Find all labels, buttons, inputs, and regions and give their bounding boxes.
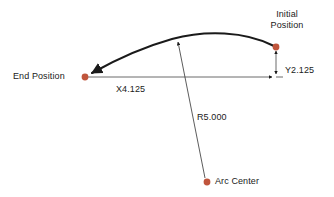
initial-position-label-line2: Position xyxy=(271,20,304,30)
initial-position-point xyxy=(273,44,280,51)
y-dimension-label: Y2.125 xyxy=(285,65,314,76)
radius-leader-line xyxy=(178,42,205,178)
arc-center-label: Arc Center xyxy=(215,176,259,187)
initial-position-label-line1: Initial xyxy=(276,9,298,19)
arc-move-diagram: InitialPosition End Position Y2.125 X4.1… xyxy=(0,0,334,197)
x-dimension-label: X4.125 xyxy=(116,84,145,95)
arc-center-point xyxy=(204,179,211,186)
end-position-label: End Position xyxy=(13,71,65,82)
end-position-point xyxy=(82,74,89,81)
radius-label: R5.000 xyxy=(197,112,227,123)
initial-position-label: InitialPosition xyxy=(259,9,315,31)
